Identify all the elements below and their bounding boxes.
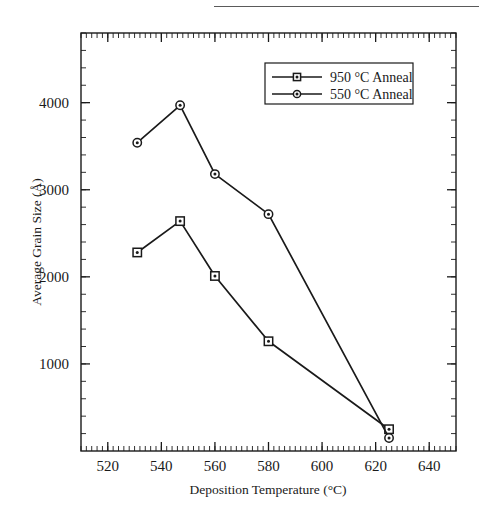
data-point-center	[179, 220, 182, 223]
data-point-center	[136, 251, 139, 254]
legend-label: 550 °C Anneal	[330, 87, 413, 102]
x-tick-label: 520	[97, 458, 120, 474]
x-axis-title: Deposition Temperature (°C)	[189, 482, 346, 497]
x-axis-tick-labels: 520540560580600620640	[97, 458, 441, 474]
x-tick-label: 640	[418, 458, 441, 474]
legend-sample-center	[296, 93, 299, 96]
data-series	[133, 217, 393, 434]
x-tick-label: 580	[257, 458, 280, 474]
data-point-center	[213, 173, 216, 176]
data-point-center	[388, 428, 391, 431]
data-point-center	[388, 436, 391, 439]
data-series	[133, 101, 393, 442]
x-tick-label: 540	[150, 458, 173, 474]
page-top-rule	[214, 6, 479, 7]
grain-size-line-chart: 520540560580600620640 1000200030004000 D…	[0, 0, 479, 526]
data-series-layer	[133, 101, 393, 442]
y-tick-label: 1000	[39, 356, 69, 372]
data-point-center	[267, 213, 270, 216]
x-tick-label: 560	[204, 458, 227, 474]
legend-sample-center	[296, 76, 299, 79]
x-tick-label: 620	[364, 458, 387, 474]
data-point-center	[267, 340, 270, 343]
data-point-center	[179, 104, 182, 107]
figure-canvas: 520540560580600620640 1000200030004000 D…	[0, 0, 479, 526]
data-point-center	[213, 274, 216, 277]
series-line	[137, 221, 389, 429]
legend-label: 950 °C Anneal	[330, 70, 413, 85]
chart-legend: 950 °C Anneal550 °C Anneal	[265, 63, 413, 104]
y-tick-label: 4000	[39, 95, 69, 111]
x-tick-label: 600	[311, 458, 334, 474]
data-point-center	[136, 141, 139, 144]
y-axis-title: Average Grain Size (Å)	[29, 178, 44, 306]
series-line	[137, 105, 389, 438]
